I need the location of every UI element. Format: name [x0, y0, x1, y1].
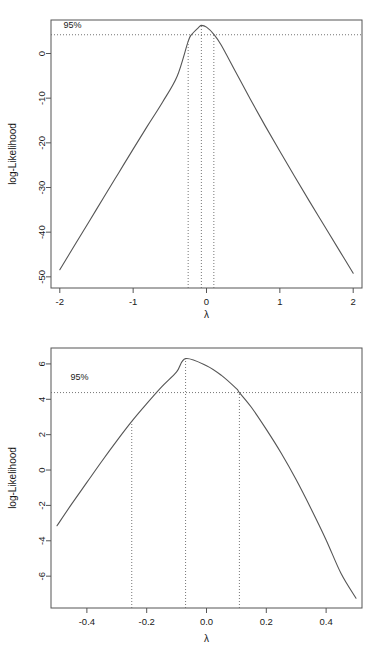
y-tick-label-top-2: -20: [36, 136, 47, 150]
x-tick-label-bot-4: 0.4: [320, 616, 333, 627]
y-tick-label-bot-5: -4: [36, 537, 47, 545]
ci-percent-label-bot: 95%: [70, 372, 88, 382]
x-tick-label-top-2: 0: [204, 296, 209, 307]
x-tick-label-top-1: -1: [129, 296, 137, 307]
y-axis-title-top: log-Likelihood: [7, 123, 18, 185]
plot-area-bottom: -0.4-0.20.00.20.46420-2-4-6λlog-Likeliho…: [7, 348, 362, 644]
ci-percent-label-top: 95%: [63, 20, 81, 30]
y-tick-label-top-5: -50: [36, 270, 47, 284]
boxcox-plot-bottom: -0.4-0.20.00.20.46420-2-4-6λlog-Likeliho…: [0, 330, 385, 656]
x-axis-title-bot: λ: [204, 633, 209, 644]
y-tick-label-bot-3: 0: [36, 467, 47, 472]
x-tick-label-bot-3: 0.2: [260, 616, 273, 627]
x-tick-label-top-3: 1: [277, 296, 282, 307]
loglikelihood-curve-top: [60, 25, 353, 273]
x-tick-label-top-4: 2: [351, 296, 356, 307]
plot-frame-bot: [51, 348, 362, 608]
loglikelihood-curve-bot: [57, 358, 356, 598]
x-tick-label-bot-2: 0.0: [200, 616, 213, 627]
y-tick-label-bot-4: -2: [36, 501, 47, 509]
y-tick-label-top-4: -40: [36, 225, 47, 239]
y-tick-label-bot-6: -6: [36, 572, 47, 580]
plot-area-top: -2-10120-10-20-30-40-50λlog-Likelihood95…: [7, 20, 362, 320]
y-tick-label-top-1: -10: [36, 91, 47, 105]
chart-panel-bottom: -0.4-0.20.00.20.46420-2-4-6λlog-Likeliho…: [0, 330, 385, 656]
figure-root: -2-10120-10-20-30-40-50λlog-Likelihood95…: [0, 0, 385, 656]
plot-frame-top: [51, 20, 362, 288]
chart-panel-top: -2-10120-10-20-30-40-50λlog-Likelihood95…: [0, 0, 385, 330]
y-tick-label-bot-0: 6: [36, 361, 47, 366]
y-tick-label-bot-2: 2: [36, 432, 47, 437]
x-axis-title-top: λ: [204, 309, 209, 320]
x-tick-label-bot-1: -0.2: [139, 616, 155, 627]
x-tick-label-top-0: -2: [56, 296, 64, 307]
x-tick-label-bot-0: -0.4: [79, 616, 95, 627]
y-axis-title-bot: log-Likelihood: [7, 447, 18, 509]
y-tick-label-bot-1: 4: [36, 397, 47, 402]
y-tick-label-top-3: -30: [36, 181, 47, 195]
boxcox-plot-top: -2-10120-10-20-30-40-50λlog-Likelihood95…: [0, 0, 385, 330]
y-tick-label-top-0: 0: [36, 51, 47, 56]
